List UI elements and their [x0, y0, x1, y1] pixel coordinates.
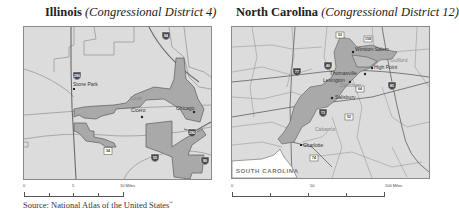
svg-text:290: 290: [74, 74, 80, 78]
illinois-map-graphic: 94 290 290 34 55 90: [24, 27, 211, 179]
scale-label-5: 5: [72, 183, 74, 188]
county-guilford: Guilford: [390, 57, 408, 63]
interstate-94-shield: 94: [162, 32, 170, 40]
scale-tick: [49, 193, 50, 196]
charlotte-marker: [300, 144, 302, 146]
svg-text:52: 52: [347, 115, 351, 119]
illinois-title-state: Illinois: [45, 5, 82, 19]
place-winston-salem: Winston-Salem: [355, 46, 389, 52]
chicago-marker: [193, 111, 195, 113]
cicero-marker: [141, 116, 143, 118]
svg-text:40: 40: [326, 64, 330, 68]
us-34-shield: 34: [104, 148, 112, 155]
interstate-73-shield: 73: [319, 109, 327, 117]
region-south-carolina: SOUTH CAROLINA: [236, 168, 299, 174]
interstate-290-shield-east: 290: [188, 129, 196, 137]
svg-text:74: 74: [312, 156, 316, 160]
scale-tick: [73, 193, 74, 196]
north-carolina-district-map: SOUTH CAROLINA 52 158 77 40 85: [231, 26, 430, 179]
us-158-shield: 158: [364, 36, 372, 42]
place-thomasville: Thomasville: [330, 70, 357, 76]
us-74-shield: 74: [310, 155, 318, 161]
place-cicero: Cicero: [131, 107, 146, 113]
us-52-shield: 52: [336, 32, 344, 38]
source-citation: Source: National Atlas of the United Sta…: [23, 200, 173, 210]
scale-label-100-miles: 100 Miles: [385, 183, 402, 188]
winston-salem-marker: [352, 51, 354, 53]
nc-map-graphic: SOUTH CAROLINA 52 158 77 40 85: [232, 27, 429, 178]
interstate-77-shield: 77: [293, 68, 301, 76]
svg-text:85: 85: [390, 84, 394, 88]
county-cook: Cook: [130, 95, 142, 101]
illinois-district-map: 94 290 290 34 55 90: [23, 26, 212, 180]
interstate-55-shield: 55: [151, 154, 159, 162]
svg-text:94: 94: [164, 34, 168, 38]
illinois-title-district: (Congressional District 4): [85, 5, 216, 19]
interstate-85-shield: 85: [388, 82, 396, 90]
scale-tick: [270, 193, 271, 196]
scale-tick: [98, 193, 99, 196]
svg-text:34: 34: [106, 149, 110, 153]
registered-mark: ®: [169, 200, 173, 205]
illinois-map-title: Illinois (Congressional District 4): [45, 5, 216, 20]
stone-park-marker: [73, 88, 75, 90]
place-high-point: High Point: [374, 64, 398, 70]
nc-scale-bar: 0 50 100 Miles: [231, 183, 421, 199]
north-carolina-map-title: North Carolina (Congressional District 1…: [236, 5, 459, 20]
svg-text:90: 90: [203, 159, 207, 163]
scale-line: [24, 192, 124, 197]
svg-text:290: 290: [189, 131, 195, 135]
scale-label-10-miles: 10 Miles: [120, 183, 135, 188]
county-davidson: Davidson: [340, 82, 361, 88]
county-cabarrus: Cabarrus: [315, 126, 336, 132]
thomasville-marker: [364, 73, 366, 75]
scale-label-0: 0: [231, 183, 233, 188]
svg-text:73: 73: [321, 111, 325, 115]
interstate-40-shield: 40: [324, 62, 332, 70]
nc-title-state: North Carolina: [236, 5, 318, 19]
scale-tick: [308, 193, 309, 196]
svg-text:52: 52: [338, 33, 342, 37]
interstate-90-shield: 90: [201, 157, 209, 165]
scale-label-0: 0: [23, 183, 25, 188]
svg-text:55: 55: [153, 156, 157, 160]
svg-text:77: 77: [295, 70, 299, 74]
place-chicago: Chicago: [176, 105, 195, 111]
place-salisbury: Salisbury: [335, 94, 356, 100]
interstate-290-shield: 290: [73, 72, 81, 80]
scale-label-50: 50: [310, 183, 314, 188]
place-charlotte: Charlotte: [303, 142, 324, 148]
svg-text:158: 158: [365, 37, 371, 41]
place-stone-park: Stone Park: [73, 81, 98, 87]
us-52-shield-south: 52: [345, 114, 353, 120]
source-text: Source: National Atlas of the United Sta…: [23, 200, 169, 210]
nc-title-district: (Congressional District 12): [321, 5, 459, 19]
illinois-scale-bar: 0 5 10 Miles: [23, 183, 143, 199]
salisbury-marker: [331, 97, 333, 99]
high-point-marker: [371, 67, 373, 69]
scale-tick: [346, 193, 347, 196]
